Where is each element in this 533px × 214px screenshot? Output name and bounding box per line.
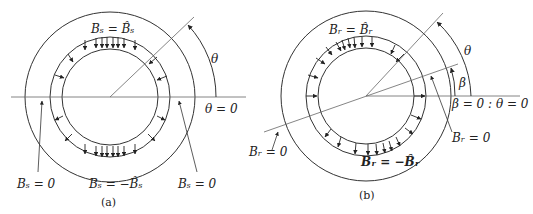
theta-ray	[366, 13, 443, 96]
label-b-left-zero: Bᵣ = 0	[248, 145, 288, 159]
left-zero-leader	[38, 101, 42, 172]
label-b-reference: β = 0 : θ = 0	[451, 97, 529, 111]
label-b-theta: θ	[464, 44, 472, 58]
label-b-bottom: Bᵣ = −B̂ᵣ	[360, 154, 420, 169]
label-a-theta-zero: θ = 0	[205, 102, 238, 116]
label-b-beta: β	[458, 76, 466, 90]
caption-a: (a)	[101, 196, 116, 209]
label-a-left-zero: Bₛ = 0	[16, 177, 56, 191]
label-a-bottom: Bₛ = −B̂ₛ	[88, 176, 142, 191]
figure-a	[11, 12, 246, 182]
label-b-top: Bᵣ = B̂ᵣ	[328, 22, 373, 37]
label-a-right-zero: Bₛ = 0	[177, 177, 217, 191]
beta-arc	[451, 68, 455, 96]
magnetic-field-diagram: Bₛ = B̂ₛ θ θ = 0 Bₛ = 0 Bₛ = −B̂ₛ Bₛ = 0…	[0, 0, 533, 214]
beta-ray	[264, 64, 458, 132]
right-zero-leader	[179, 101, 197, 172]
right-zero-leader	[431, 76, 452, 132]
caption-b: (b)	[359, 189, 375, 202]
label-b-right-zero: Bᵣ = 0	[451, 131, 491, 145]
label-a-top: Bₛ = B̂ₛ	[90, 21, 134, 36]
label-a-theta: θ	[211, 52, 219, 66]
